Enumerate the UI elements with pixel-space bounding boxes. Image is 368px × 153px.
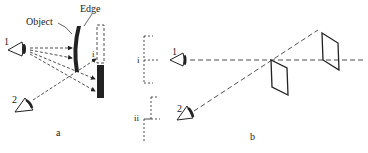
edge-label: Edge: [80, 3, 101, 14]
rays-eye-1: [30, 48, 95, 91]
panel-a: Object Edge i 1 2: [4, 3, 104, 138]
curved-object: [73, 26, 81, 72]
object-leader-line: [58, 23, 72, 34]
eye-1-b-label: 1: [172, 46, 177, 57]
near-plane: [271, 60, 288, 95]
ray-eye-2: [33, 59, 96, 100]
edge-image-dashed: [97, 25, 104, 63]
diagram-canvas: Object Edge i 1 2: [0, 0, 368, 153]
object-label: Object: [26, 16, 53, 27]
eye-1-label: 1: [4, 36, 9, 47]
line-of-sight-2: [194, 30, 318, 111]
image-i-label-b: i: [137, 55, 140, 65]
eye-2-icon: [15, 98, 33, 112]
panel-b-caption: b: [250, 131, 255, 142]
image-i-bracket: [144, 36, 158, 83]
image-i-label: i: [92, 49, 95, 59]
panel-b: i ii 1 2 b: [134, 30, 363, 143]
image-ii-label: ii: [134, 113, 140, 123]
edge-solid-bar: [97, 65, 104, 98]
eye-1-icon: [8, 42, 26, 56]
eye-2-b-label: 2: [177, 103, 182, 114]
image-ii-bracket: [144, 97, 160, 143]
far-plane: [322, 33, 339, 70]
eye-2-label: 2: [12, 94, 17, 105]
edge-leader-line: [84, 14, 92, 26]
panel-a-caption: a: [56, 127, 61, 138]
